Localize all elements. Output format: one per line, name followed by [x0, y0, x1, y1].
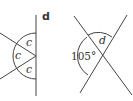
angle-105-label: 105° [71, 50, 96, 62]
part-label: d [42, 10, 50, 23]
angle-label-top: c [26, 36, 32, 49]
angle-diagrams: d c c c 105° d [0, 0, 133, 101]
angle-d-label: d [99, 34, 106, 47]
angle-label-middle: c [15, 49, 21, 62]
angle-label-bottom: c [26, 63, 32, 76]
